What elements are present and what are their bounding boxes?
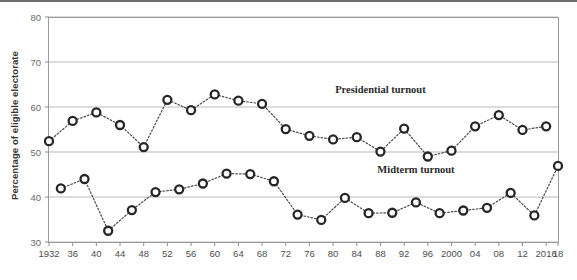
data-point: [187, 106, 195, 114]
x-tick-label: 36: [67, 248, 78, 259]
data-point: [353, 133, 361, 141]
x-tick-label: 04: [470, 248, 481, 259]
data-point: [459, 207, 467, 215]
data-point: [116, 121, 124, 129]
data-point: [270, 177, 278, 185]
x-tick-label: 18: [553, 248, 564, 259]
x-tick-label: 84: [351, 248, 362, 259]
data-point: [542, 122, 550, 130]
data-point: [152, 188, 160, 196]
x-axis-ticks: 1932364044485256606468727680848892962000…: [38, 242, 563, 259]
data-point: [81, 175, 89, 183]
y-tick-label: 60: [30, 102, 41, 113]
data-point: [388, 209, 396, 217]
data-point: [412, 198, 420, 206]
x-tick-label: 68: [257, 248, 268, 259]
x-tick-label: 52: [162, 248, 173, 259]
data-point: [57, 184, 65, 192]
x-tick-label: 88: [375, 248, 386, 259]
data-point: [69, 117, 77, 125]
data-point: [258, 100, 266, 108]
series-annotation: Midterm turnout: [377, 164, 455, 175]
data-point: [246, 170, 254, 178]
chart-figure: Percentage of eligible electorate 304050…: [0, 0, 577, 280]
data-point: [483, 204, 491, 212]
series-markers: [45, 90, 562, 234]
turnout-line-chart: 304050607080 193236404448525660646872768…: [0, 0, 577, 280]
data-point: [447, 147, 455, 155]
data-point: [341, 194, 349, 202]
series-annotations: Presidential turnoutMidterm turnout: [335, 84, 455, 175]
data-point: [294, 211, 302, 219]
data-point: [518, 126, 526, 134]
x-tick-label: 12: [517, 248, 528, 259]
x-tick-label: 44: [115, 248, 126, 259]
x-tick-label: 2000: [441, 248, 462, 259]
data-point: [175, 185, 183, 193]
x-tick-label: 96: [423, 248, 434, 259]
x-tick-label: 40: [91, 248, 102, 259]
data-point: [554, 162, 562, 170]
x-tick-label: 48: [138, 248, 149, 259]
data-point: [530, 211, 538, 219]
series-lines: [49, 94, 558, 230]
x-tick-label: 08: [494, 248, 505, 259]
data-point: [329, 135, 337, 143]
y-axis-ticks: 304050607080: [30, 12, 49, 248]
y-tick-label: 70: [30, 57, 41, 68]
x-tick-label: 76: [304, 248, 315, 259]
data-point: [140, 143, 148, 151]
data-point: [471, 122, 479, 130]
data-point: [365, 209, 373, 217]
data-point: [495, 111, 503, 119]
data-point: [507, 189, 515, 197]
x-tick-label: 1932: [38, 248, 59, 259]
y-tick-label: 50: [30, 147, 41, 158]
series-annotation: Presidential turnout: [335, 84, 426, 95]
data-point: [424, 153, 432, 161]
x-tick-label: 60: [209, 248, 220, 259]
data-point: [223, 170, 231, 178]
data-point: [436, 209, 444, 217]
x-tick-label: 72: [280, 248, 291, 259]
data-point: [104, 227, 112, 235]
series-line-midterm-turnout: [61, 166, 558, 231]
data-point: [305, 132, 313, 140]
data-point: [92, 108, 100, 116]
data-point: [234, 97, 242, 105]
data-point: [199, 180, 207, 188]
data-point: [317, 216, 325, 224]
data-point: [45, 137, 53, 145]
x-tick-label: 92: [399, 248, 410, 259]
data-point: [282, 125, 290, 133]
data-point: [163, 96, 171, 104]
data-point: [128, 206, 136, 214]
x-tick-label: 56: [186, 248, 197, 259]
y-tick-label: 80: [30, 12, 41, 23]
x-tick-label: 64: [233, 248, 244, 259]
y-tick-label: 40: [30, 192, 41, 203]
data-point: [376, 148, 384, 156]
y-tick-label: 30: [30, 237, 41, 248]
data-point: [400, 125, 408, 133]
x-tick-label: 80: [328, 248, 339, 259]
data-point: [211, 90, 219, 98]
